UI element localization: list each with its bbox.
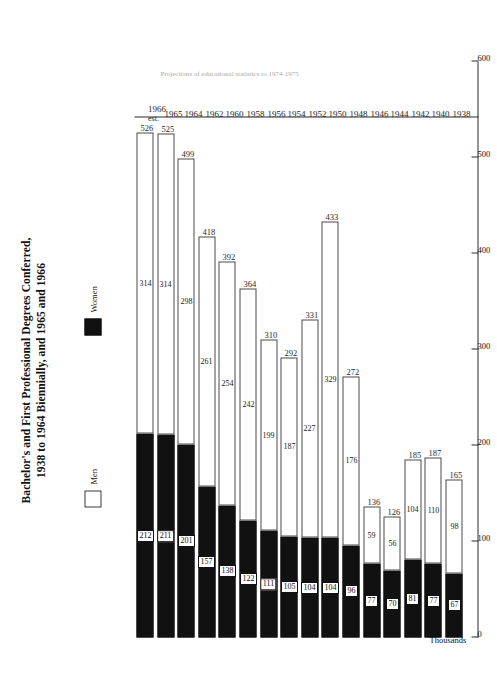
bar-segment-men[interactable]: 176: [342, 376, 359, 545]
bar-total-value: 433: [325, 211, 338, 221]
bar-segment-men-value: 261: [200, 357, 212, 365]
bar-segment-men-value: 242: [242, 400, 254, 408]
title-line-2: 1938 to 1964 Biennially, and 1965 and 19…: [33, 205, 48, 535]
bar-row[interactable]: 211314525: [157, 61, 174, 637]
bar-row[interactable]: 104227331: [301, 61, 318, 637]
bar-segment-women-value: 211: [157, 530, 174, 542]
bar-total-value: 331: [305, 309, 318, 319]
bar-segment-men[interactable]: 187: [280, 357, 297, 537]
bar-segment-women[interactable]: 96: [342, 545, 359, 637]
bar-row[interactable]: 157261418: [198, 61, 215, 637]
bar-segment-women[interactable]: 81: [404, 559, 421, 637]
category-label: 1952: [308, 108, 326, 118]
bar-row[interactable]: 7056126: [383, 61, 400, 637]
bar-segment-men-value: 104: [406, 505, 418, 513]
bar-total-value: 310: [264, 329, 277, 339]
bar-segment-women-value: 77: [426, 594, 439, 606]
axis-tick-label: 200: [477, 436, 490, 446]
axis-tick-label: 100: [477, 532, 490, 542]
bar-row[interactable]: 212314526: [136, 61, 153, 637]
axis-tick-label: 400: [477, 244, 490, 254]
bar-segment-women[interactable]: 157: [198, 486, 215, 637]
bar-segment-men[interactable]: 254: [218, 261, 235, 505]
bar-segment-women[interactable]: 104: [321, 537, 338, 637]
bar-segment-women[interactable]: 201: [177, 444, 194, 637]
axis-tick-label: 300: [477, 340, 490, 350]
rotated-figure-wrapper: Bachelor's and First Professional Degree…: [0, 0, 497, 693]
bar-segment-men[interactable]: 261: [198, 236, 215, 487]
bar-segment-men-value: 314: [139, 279, 151, 287]
bar-total-value: 187: [428, 447, 441, 457]
bar-segment-men[interactable]: 56: [383, 516, 400, 570]
bar-segment-women[interactable]: 70: [383, 570, 400, 637]
category-label: 1938: [452, 108, 470, 118]
bar-segment-women[interactable]: 77: [363, 563, 380, 637]
bar-segment-women[interactable]: 105: [280, 536, 297, 637]
bar-row[interactable]: 104329433: [321, 61, 338, 637]
bar-segment-women[interactable]: 104: [301, 537, 318, 637]
bar-segment-women-value: 67: [447, 599, 460, 611]
bar-row[interactable]: 111199310: [260, 61, 277, 637]
bar-segment-men-value: 314: [159, 280, 171, 288]
bar-segment-women[interactable]: 67: [445, 573, 462, 637]
bar-segment-men[interactable]: 314: [157, 133, 174, 434]
bar-total-value: 126: [387, 506, 400, 516]
bar-segment-women-value: 96: [344, 585, 357, 597]
bar-segment-men-value: 187: [283, 442, 295, 450]
bar-segment-women[interactable]: 138: [218, 505, 235, 637]
bar-row[interactable]: 6798165: [445, 61, 462, 637]
bar-row[interactable]: 122242364: [239, 61, 256, 637]
bar-total-value: 526: [140, 122, 153, 132]
axis-tick-label: 500: [477, 148, 490, 158]
bar-segment-women-value: 81: [406, 592, 419, 604]
bar-total-value: 364: [243, 278, 256, 288]
bar-segment-men[interactable]: 298: [177, 158, 194, 444]
category-label: 1962: [205, 108, 223, 118]
title-line-1: Bachelor's and First Professional Degree…: [18, 205, 33, 535]
bar-segment-men-value: 254: [221, 379, 233, 387]
category-label: 1940: [431, 108, 449, 118]
bar-segment-men[interactable]: 329: [321, 221, 338, 537]
bar-segment-men-value: 176: [345, 456, 357, 464]
bar-row[interactable]: 138254392: [218, 61, 235, 637]
category-label: 1965: [164, 108, 182, 118]
bar-row[interactable]: 77110187: [424, 61, 441, 637]
bar-row[interactable]: 81104185: [404, 61, 421, 637]
bar-segment-women-value: 77: [365, 594, 378, 606]
bar-row[interactable]: 201298499: [177, 61, 194, 637]
bar-segment-women[interactable]: 212: [136, 433, 153, 637]
bar-total-value: 165: [449, 469, 462, 479]
legend-label-women: Women: [88, 286, 98, 312]
bar-row[interactable]: 105187292: [280, 61, 297, 637]
page-title: Bachelor's and First Professional Degree…: [18, 205, 47, 535]
bar-total-value: 272: [346, 366, 359, 376]
bar-row[interactable]: 96176272: [342, 61, 359, 637]
bar-total-value: 525: [161, 123, 174, 133]
category-label: 1942: [411, 108, 429, 118]
bar-segment-men-value: 199: [262, 431, 274, 439]
bar-total-value: 499: [181, 148, 194, 158]
bar-series: 6798165771101878110418570561267759136961…: [134, 41, 478, 637]
bar-row[interactable]: 7759136: [363, 61, 380, 637]
bar-segment-men[interactable]: 104: [404, 459, 421, 559]
bar-segment-men-value: 59: [367, 531, 375, 539]
bar-segment-men[interactable]: 227: [301, 319, 318, 537]
bar-segment-women[interactable]: 122: [239, 520, 256, 637]
bar-segment-men[interactable]: 242: [239, 288, 256, 520]
bar-segment-men[interactable]: 59: [363, 506, 380, 563]
category-label: 1944: [390, 108, 408, 118]
bar-segment-women-value: 104: [301, 581, 318, 593]
bar-segment-women[interactable]: 77: [424, 563, 441, 637]
bar-segment-women[interactable]: 211: [157, 434, 174, 637]
bar-segment-men[interactable]: 314: [136, 132, 153, 433]
category-label: 1954: [287, 108, 305, 118]
bar-segment-men[interactable]: 110: [424, 458, 441, 564]
bar-segment-men-value: 298: [180, 297, 192, 305]
category-label: 1948: [349, 108, 367, 118]
bar-segment-women-value: 201: [177, 535, 194, 547]
bar-segment-men-value: 98: [450, 522, 458, 530]
bar-segment-men[interactable]: 199: [260, 339, 277, 530]
bar-segment-men[interactable]: 98: [445, 479, 462, 573]
bar-segment-women[interactable]: 111: [260, 530, 277, 637]
bar-total-value: 418: [202, 226, 215, 236]
